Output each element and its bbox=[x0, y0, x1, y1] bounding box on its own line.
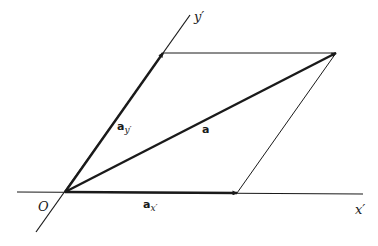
vector-ax-label: ax′ bbox=[143, 199, 158, 210]
vector-ay-arrow bbox=[65, 53, 163, 192]
vector-a-label: a bbox=[202, 124, 209, 135]
diagram-canvas: O x′ y′ a ay′ ax′ bbox=[0, 0, 378, 246]
diagram-svg bbox=[0, 0, 378, 246]
x-axis-label: x′ bbox=[355, 203, 365, 216]
vector-ax-arrow bbox=[65, 192, 237, 193]
y-axis-label: y′ bbox=[194, 10, 204, 23]
vector-ay-subscript: y′ bbox=[124, 125, 131, 135]
right-parallel-line bbox=[237, 53, 336, 193]
vector-ax-subscript: x′ bbox=[150, 203, 157, 213]
vector-a-arrow bbox=[65, 53, 336, 192]
origin-label: O bbox=[38, 200, 49, 213]
vector-ay-label: ay′ bbox=[117, 121, 132, 132]
